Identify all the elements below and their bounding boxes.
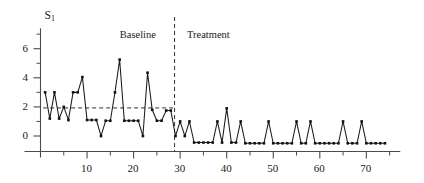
x-axis-tick-label: 10 bbox=[81, 163, 92, 174]
series-point bbox=[360, 120, 363, 123]
y-axis-tick-label: 6 bbox=[23, 43, 29, 54]
series-point bbox=[95, 119, 98, 122]
series-point bbox=[314, 142, 317, 145]
baseline-label: Baseline bbox=[120, 30, 156, 41]
series-point bbox=[295, 120, 298, 123]
series-point bbox=[305, 142, 308, 145]
x-axis-tick-label: 60 bbox=[314, 163, 325, 174]
series-point bbox=[253, 142, 256, 145]
series-point bbox=[337, 142, 340, 145]
y-axis-tick-label: 0 bbox=[23, 130, 29, 141]
series-point bbox=[346, 142, 349, 145]
series-point bbox=[58, 117, 61, 120]
series-point bbox=[76, 91, 79, 94]
y-axis-tick-label: 4 bbox=[23, 72, 29, 83]
series-point bbox=[207, 141, 210, 144]
series-point bbox=[128, 119, 131, 122]
series-point bbox=[291, 142, 294, 145]
series-point bbox=[319, 142, 322, 145]
series-point bbox=[332, 142, 335, 145]
series-point bbox=[160, 119, 163, 122]
series-point bbox=[104, 119, 107, 122]
series-point bbox=[281, 142, 284, 145]
series-point bbox=[72, 91, 75, 94]
series-point bbox=[272, 142, 275, 145]
series-point bbox=[211, 141, 214, 144]
series-point bbox=[235, 141, 238, 144]
chart-plot-area bbox=[0, 0, 424, 183]
series-point bbox=[286, 142, 289, 145]
series-point bbox=[132, 119, 135, 122]
series-point bbox=[170, 109, 173, 112]
chart-container: S1 Baseline Treatment 10203040506070 024… bbox=[0, 0, 424, 183]
series-point bbox=[351, 142, 354, 145]
series-point bbox=[142, 135, 145, 138]
series-point bbox=[300, 142, 303, 145]
series-point bbox=[179, 120, 182, 123]
series-point bbox=[365, 142, 368, 145]
x-axis-tick-label: 30 bbox=[174, 163, 185, 174]
series-point bbox=[370, 142, 373, 145]
series-point bbox=[100, 135, 103, 138]
series-point bbox=[146, 71, 149, 74]
series-point bbox=[225, 107, 228, 110]
series-point bbox=[86, 119, 89, 122]
series-point bbox=[137, 119, 140, 122]
series-point bbox=[379, 142, 382, 145]
series-point bbox=[263, 142, 266, 145]
y-axis-tick-label: 2 bbox=[23, 101, 29, 112]
series-label-subscript: 1 bbox=[51, 14, 55, 23]
series-point bbox=[249, 142, 252, 145]
series-point bbox=[323, 142, 326, 145]
series-point bbox=[174, 135, 177, 138]
series-point bbox=[44, 91, 47, 94]
series-point bbox=[342, 120, 345, 123]
series-point bbox=[118, 58, 121, 61]
series-point bbox=[67, 119, 70, 122]
series-point bbox=[202, 141, 205, 144]
series-point bbox=[374, 142, 377, 145]
series-line-S1 bbox=[45, 60, 385, 144]
series-point bbox=[356, 142, 359, 145]
series-point bbox=[221, 141, 224, 144]
series-point bbox=[53, 91, 56, 94]
series-point bbox=[109, 119, 112, 122]
series-point bbox=[277, 142, 280, 145]
series-point bbox=[184, 135, 187, 138]
series-point bbox=[197, 141, 200, 144]
series-point bbox=[216, 120, 219, 123]
series-point bbox=[193, 141, 196, 144]
series-point bbox=[267, 120, 270, 123]
series-point bbox=[151, 109, 154, 112]
series-point bbox=[123, 119, 126, 122]
series-axis-label: S1 bbox=[45, 10, 55, 22]
treatment-label: Treatment bbox=[187, 30, 230, 41]
series-point bbox=[165, 109, 168, 112]
series-point bbox=[244, 142, 247, 145]
x-axis-tick-label: 70 bbox=[360, 163, 371, 174]
series-point bbox=[309, 120, 312, 123]
x-axis-tick-label: 50 bbox=[267, 163, 278, 174]
series-point bbox=[384, 142, 387, 145]
series-point bbox=[258, 142, 261, 145]
series-point bbox=[81, 76, 84, 79]
series-point bbox=[90, 119, 93, 122]
series-point bbox=[49, 117, 52, 120]
series-point bbox=[62, 106, 65, 109]
series-point bbox=[230, 141, 233, 144]
x-axis-tick-label: 20 bbox=[128, 163, 139, 174]
series-point bbox=[114, 91, 117, 94]
series-point bbox=[328, 142, 331, 145]
series-point bbox=[239, 120, 242, 123]
series-point bbox=[156, 119, 159, 122]
series-point bbox=[188, 120, 191, 123]
x-axis-tick-label: 40 bbox=[221, 163, 232, 174]
